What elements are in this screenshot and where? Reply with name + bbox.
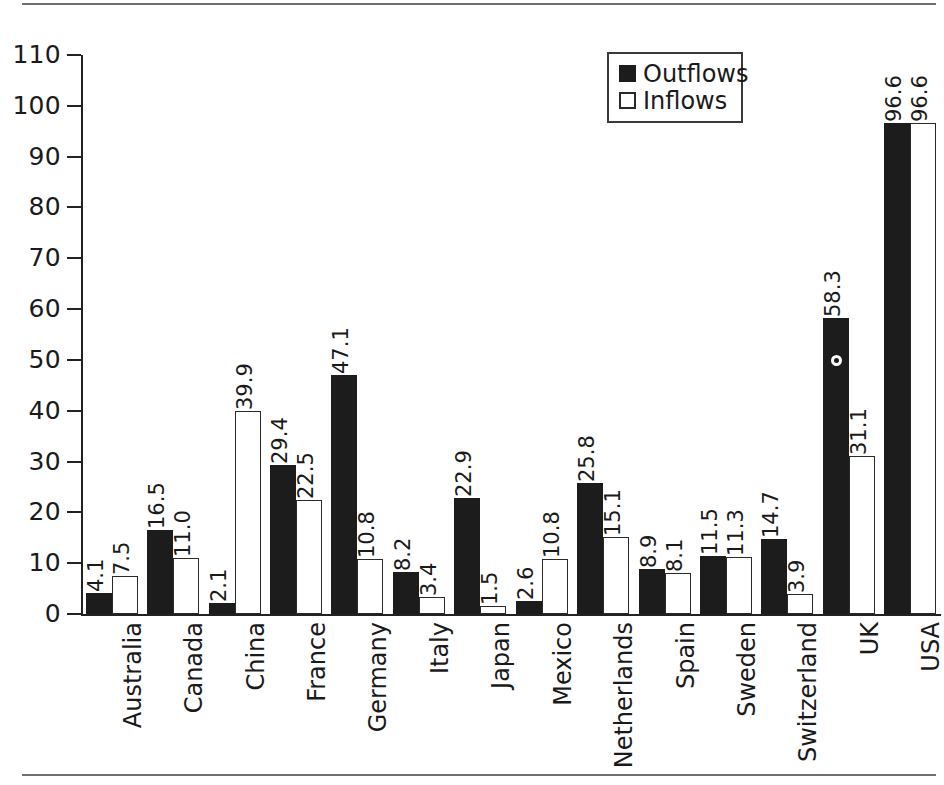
x-axis-label-usa: USA <box>919 622 943 672</box>
y-axis-tick <box>67 308 81 310</box>
bar-value-label: 22.9 <box>454 450 475 497</box>
x-axis-label-japan: Japan <box>489 622 513 689</box>
bar-value-label: 11.0 <box>173 510 194 557</box>
bar-value-label: 10.8 <box>357 511 378 558</box>
bar-outflows-spain[interactable]: 8.9 <box>639 569 665 614</box>
scan-speck-artifact <box>831 355 842 366</box>
x-axis-label-italy: Italy <box>428 622 452 674</box>
bar-group: 11.511.3 <box>700 55 752 614</box>
bar-outflows-japan[interactable]: 22.9 <box>454 498 480 614</box>
legend-swatch-inflows-icon <box>619 92 636 109</box>
bar-inflows-uk[interactable]: 31.1 <box>849 456 875 614</box>
bar-inflows-germany[interactable]: 10.8 <box>357 559 383 614</box>
bar-value-label: 3.9 <box>787 560 808 593</box>
bar-value-label: 96.6 <box>910 75 931 122</box>
bar-outflows-mexico[interactable]: 2.6 <box>516 601 542 614</box>
bar-inflows-sweden[interactable]: 11.3 <box>726 557 752 614</box>
x-axis-label-canada: Canada <box>182 622 206 713</box>
legend-label-inflows: Inflows <box>643 89 727 113</box>
y-axis-tick <box>67 613 81 615</box>
bar-value-label: 2.6 <box>516 566 537 599</box>
bar-value-label: 31.1 <box>849 408 870 455</box>
x-axis-spine <box>81 614 941 616</box>
bar-value-label: 8.1 <box>665 538 686 571</box>
legend-entry-outflows: Outflows <box>619 60 731 87</box>
y-axis-tick-label: 10 <box>0 550 61 575</box>
x-axis-label-sweden: Sweden <box>735 622 759 717</box>
bar-inflows-australia[interactable]: 7.5 <box>112 576 138 614</box>
bar-outflows-france[interactable]: 29.4 <box>270 465 296 614</box>
y-axis-tick <box>67 359 81 361</box>
bar-value-label: 47.1 <box>331 327 352 374</box>
bar-group: 25.815.1 <box>577 55 629 614</box>
bar-group: 2.610.8 <box>516 55 568 614</box>
bar-inflows-france[interactable]: 22.5 <box>296 500 322 614</box>
bar-outflows-australia[interactable]: 4.1 <box>86 593 112 614</box>
bar-outflows-netherlands[interactable]: 25.8 <box>577 483 603 614</box>
y-axis-tick-label: 90 <box>0 144 61 169</box>
x-axis-label-china: China <box>244 622 268 691</box>
bar-group: 58.331.1 <box>823 55 875 614</box>
y-axis-tick-label: 100 <box>0 93 61 118</box>
bar-value-label: 11.3 <box>726 509 747 556</box>
bar-value-label: 29.4 <box>270 417 291 464</box>
bar-value-label: 8.2 <box>393 538 414 571</box>
legend-entry-inflows: Inflows <box>619 87 731 114</box>
y-axis-tick-label: 50 <box>0 347 61 372</box>
x-axis-label-mexico: Mexico <box>551 622 575 706</box>
bar-inflows-italy[interactable]: 3.4 <box>419 597 445 614</box>
bar-group: 47.110.8 <box>331 55 383 614</box>
bar-inflows-switzerland[interactable]: 3.9 <box>787 594 813 614</box>
bar-value-label: 58.3 <box>823 270 844 317</box>
chart-legend: Outflows Inflows <box>607 52 743 123</box>
x-axis-label-germany: Germany <box>366 622 390 732</box>
bar-value-label: 4.1 <box>86 559 107 592</box>
y-axis-tick-label: 70 <box>0 245 61 270</box>
y-axis-tick-label: 40 <box>0 398 61 423</box>
bar-value-label: 7.5 <box>112 541 133 574</box>
y-axis-tick-label: 80 <box>0 194 61 219</box>
bar-group: 2.139.9 <box>209 55 261 614</box>
bar-group: 4.17.5 <box>86 55 138 614</box>
x-axis-label-uk: UK <box>858 622 882 655</box>
bar-inflows-canada[interactable]: 11.0 <box>173 558 199 614</box>
bar-value-label: 11.5 <box>700 508 721 555</box>
y-axis-tick <box>67 54 81 56</box>
bar-group: 29.422.5 <box>270 55 322 614</box>
bar-outflows-germany[interactable]: 47.1 <box>331 375 357 614</box>
bar-outflows-sweden[interactable]: 11.5 <box>700 556 726 614</box>
bar-value-label: 1.5 <box>480 572 501 605</box>
bar-outflows-china[interactable]: 2.1 <box>209 603 235 614</box>
bar-value-label: 16.5 <box>147 482 168 529</box>
y-axis-tick <box>67 511 81 513</box>
bar-inflows-netherlands[interactable]: 15.1 <box>603 537 629 614</box>
bar-inflows-usa[interactable]: 96.6 <box>910 123 936 614</box>
bar-outflows-italy[interactable]: 8.2 <box>393 572 419 614</box>
y-axis-tick-label: 60 <box>0 296 61 321</box>
x-axis-label-netherlands: Netherlands <box>612 622 636 768</box>
bar-value-label: 14.7 <box>761 492 782 539</box>
bar-group: 16.511.0 <box>147 55 199 614</box>
bar-outflows-canada[interactable]: 16.5 <box>147 530 173 614</box>
bar-outflows-usa[interactable]: 96.6 <box>884 123 910 614</box>
bar-inflows-mexico[interactable]: 10.8 <box>542 559 568 614</box>
y-axis-tick <box>67 410 81 412</box>
y-axis-tick <box>67 206 81 208</box>
bar-outflows-switzerland[interactable]: 14.7 <box>761 539 787 614</box>
plot-area: 4.17.516.511.02.139.929.422.547.110.88.2… <box>81 55 941 614</box>
y-axis-tick <box>67 257 81 259</box>
y-axis-tick <box>67 562 81 564</box>
legend-swatch-outflows-icon <box>619 65 636 82</box>
x-axis-label-switzerland: Switzerland <box>796 622 820 762</box>
bar-inflows-spain[interactable]: 8.1 <box>665 573 691 614</box>
bar-value-label: 8.9 <box>639 534 660 567</box>
x-axis-label-australia: Australia <box>121 622 145 728</box>
y-axis-tick <box>67 156 81 158</box>
x-axis-label-france: France <box>305 622 329 702</box>
bar-inflows-japan[interactable]: 1.5 <box>480 606 506 614</box>
bar-inflows-china[interactable]: 39.9 <box>235 411 261 614</box>
y-axis-tick <box>67 461 81 463</box>
bar-value-label: 22.5 <box>296 452 317 499</box>
bar-value-label: 39.9 <box>235 363 256 410</box>
y-axis-tick-label: 110 <box>0 42 61 67</box>
